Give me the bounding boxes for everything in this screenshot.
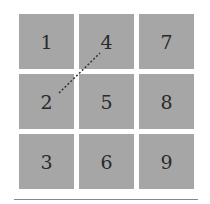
- dotted-connector-line: [0, 0, 210, 204]
- divider-line: [14, 199, 198, 200]
